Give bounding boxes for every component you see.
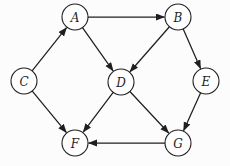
node-A: A [62,4,88,30]
node-circle-B [165,4,191,30]
node-circle-E [193,68,219,94]
graph-canvas: ABCDEFG [0,0,230,166]
edge-D-to-G [130,92,169,133]
graph-diagram: ABCDEFG [0,0,230,166]
node-circle-A [62,4,88,30]
node-E: E [193,68,219,94]
edge-B-to-D [130,27,169,72]
edge-A-to-D [83,28,113,71]
edge-D-to-F [83,92,113,131]
edge-C-to-F [32,91,66,132]
node-circle-C [11,68,37,94]
edge-E-to-G [184,93,201,130]
node-B: B [165,4,191,30]
edge-C-to-A [32,28,66,71]
edge-B-to-E [183,29,200,68]
node-circle-G [165,130,191,156]
node-C: C [11,68,37,94]
node-circle-D [108,69,134,95]
node-circle-F [62,130,88,156]
node-D: D [108,69,134,95]
node-F: F [62,130,88,156]
node-G: G [165,130,191,156]
